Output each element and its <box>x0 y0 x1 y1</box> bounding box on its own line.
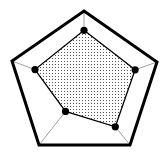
radar-chart <box>0 0 164 152</box>
radar-data-point <box>62 108 69 115</box>
radar-data-area <box>35 30 135 127</box>
radar-data-point <box>80 27 87 34</box>
radar-data-point <box>132 66 139 73</box>
radar-data-point <box>31 66 38 73</box>
radar-data-point <box>112 123 119 130</box>
